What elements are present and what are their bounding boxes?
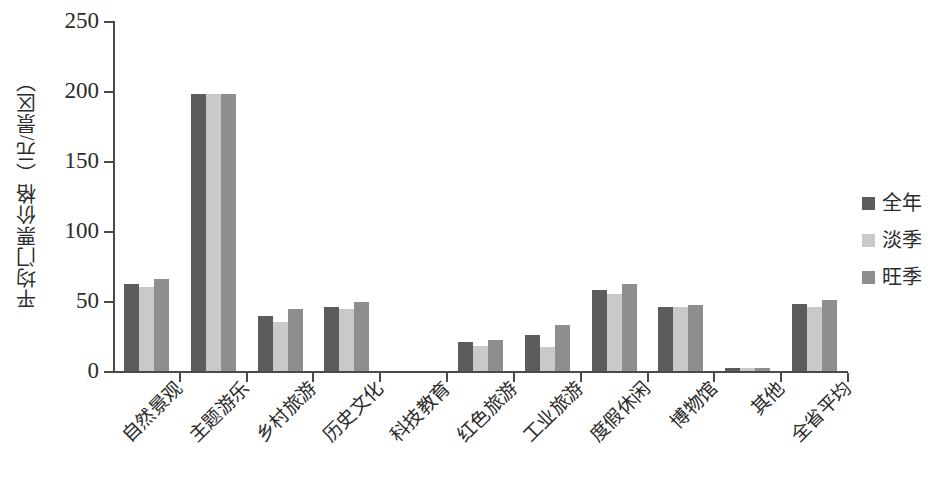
y-tick-label: 200 bbox=[65, 79, 100, 102]
bar bbox=[221, 94, 236, 371]
legend-swatch-icon bbox=[862, 234, 875, 247]
y-axis-title: 平均门票价格（元/景区） bbox=[6, 40, 46, 340]
bar bbox=[725, 368, 740, 371]
x-axis-label: 历史文化 bbox=[315, 374, 388, 447]
bar bbox=[339, 309, 354, 371]
y-tick-label: 100 bbox=[65, 219, 100, 242]
bar bbox=[807, 307, 822, 371]
x-axis-label: 博物馆 bbox=[663, 374, 722, 433]
x-axis-label: 红色旅游 bbox=[449, 374, 522, 447]
y-tick-mark bbox=[104, 301, 113, 303]
x-axis-labels: 自然景观主题游乐乡村旅游历史文化科技教育红色旅游工业旅游度假休闲博物馆其他全省平… bbox=[113, 374, 848, 492]
legend: 全年淡季旺季 bbox=[862, 193, 922, 287]
legend-label: 全年 bbox=[882, 193, 922, 213]
x-axis-label: 其他 bbox=[743, 374, 789, 420]
bar bbox=[592, 290, 607, 371]
bar-group bbox=[590, 21, 638, 371]
x-axis-label: 度假休闲 bbox=[582, 374, 655, 447]
bar bbox=[740, 368, 755, 371]
y-axis-title-text: 平均门票价格（元/景区） bbox=[12, 71, 41, 309]
bar bbox=[139, 287, 154, 371]
bar bbox=[473, 346, 488, 371]
bar-group bbox=[390, 21, 438, 371]
x-axis-label: 科技教育 bbox=[382, 374, 455, 447]
x-axis-label: 乡村旅游 bbox=[248, 374, 321, 447]
bar bbox=[191, 94, 206, 371]
y-tick-label: 50 bbox=[76, 289, 99, 312]
bar-groups bbox=[113, 21, 848, 372]
bar bbox=[755, 368, 770, 371]
bar bbox=[458, 342, 473, 371]
bar bbox=[792, 304, 807, 371]
bar-group bbox=[189, 21, 237, 371]
y-tick-mark bbox=[104, 161, 113, 163]
bar bbox=[258, 316, 273, 371]
bar bbox=[822, 300, 837, 371]
bar bbox=[288, 309, 303, 371]
legend-item[interactable]: 旺季 bbox=[862, 267, 922, 287]
bar bbox=[525, 335, 540, 371]
y-tick-mark bbox=[104, 91, 113, 93]
y-tick-label: 0 bbox=[88, 359, 100, 382]
y-tick-mark bbox=[104, 21, 113, 23]
bar bbox=[273, 322, 288, 371]
bar bbox=[622, 284, 637, 371]
bar bbox=[206, 94, 221, 371]
x-axis-label: 主题游乐 bbox=[181, 374, 254, 447]
legend-swatch-icon bbox=[862, 197, 875, 210]
y-tick-mark bbox=[104, 371, 113, 373]
legend-label: 旺季 bbox=[882, 267, 922, 287]
bar bbox=[324, 307, 339, 371]
x-axis-label: 工业旅游 bbox=[516, 374, 589, 447]
legend-label: 淡季 bbox=[882, 230, 922, 250]
bar-group bbox=[791, 21, 839, 371]
x-axis-label: 自然景观 bbox=[115, 374, 188, 447]
bar bbox=[354, 302, 369, 371]
bar-group bbox=[724, 21, 772, 371]
bar-group bbox=[256, 21, 304, 371]
bar bbox=[154, 279, 169, 371]
y-tick-label: 250 bbox=[65, 9, 100, 32]
legend-item[interactable]: 淡季 bbox=[862, 230, 922, 250]
bar-group bbox=[323, 21, 371, 371]
bar bbox=[555, 325, 570, 371]
bar-group bbox=[657, 21, 705, 371]
legend-item[interactable]: 全年 bbox=[862, 193, 922, 213]
bar-chart: 平均门票价格（元/景区） 050100150200250 自然景观主题游乐乡村旅… bbox=[0, 0, 936, 492]
bar bbox=[540, 347, 555, 371]
legend-swatch-icon bbox=[862, 271, 875, 284]
bar bbox=[658, 307, 673, 371]
bar bbox=[673, 307, 688, 371]
bar bbox=[124, 284, 139, 371]
bar-group bbox=[122, 21, 170, 371]
bar-group bbox=[457, 21, 505, 371]
bar bbox=[688, 305, 703, 371]
y-tick-mark bbox=[104, 231, 113, 233]
bar bbox=[607, 294, 622, 371]
plot-area: 050100150200250 bbox=[113, 21, 848, 372]
x-axis-label: 全省平均 bbox=[783, 374, 856, 447]
y-tick-label: 150 bbox=[65, 149, 100, 172]
bar bbox=[488, 340, 503, 371]
bar-group bbox=[523, 21, 571, 371]
